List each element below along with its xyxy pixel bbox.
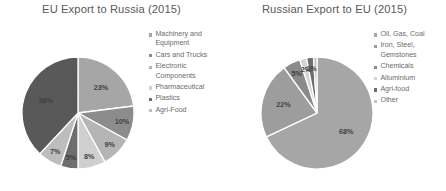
legend-bullet-icon [149, 66, 152, 69]
pie-slice-label: 2% [306, 64, 317, 73]
legend-label: Pharmaceutical [155, 83, 204, 92]
legend-label: Other [380, 96, 398, 105]
pie-slice-label: 68% [339, 127, 354, 136]
legend-bullet-icon [374, 66, 377, 69]
legend-bullet-icon [374, 45, 377, 48]
legend-label: Cars and Trucks [155, 51, 207, 60]
legend-item[interactable]: Agri-Food [149, 106, 223, 115]
legend-bullet-icon [149, 98, 152, 101]
legend-item[interactable]: Alluminium [374, 74, 446, 83]
legend-bullet-icon [374, 33, 377, 36]
legend-item[interactable]: Plastics [149, 94, 223, 103]
pie-slice-label: 23% [94, 83, 109, 92]
chart-panel-eu-export: EU Export to Russia (2015) 23%10%9%8%5%7… [0, 0, 223, 191]
legend-bullet-icon [374, 77, 377, 80]
legend-bullet-icon [374, 100, 377, 103]
legend-left: Machinery and Equipment Cars and Trucks … [149, 30, 223, 117]
legend-label: Iron, Steel, Gemstones [380, 41, 446, 60]
legend-label: Agri-food [380, 85, 409, 94]
chart-page: EU Export to Russia (2015) 23%10%9%8%5%7… [0, 0, 446, 191]
page-title-left: EU Export to Russia (2015) [0, 3, 223, 15]
legend-item[interactable]: Machinery and Equipment [149, 30, 223, 49]
pie-svg-right: 68%22%5%2%2% [260, 56, 374, 170]
legend-label: Chemicals [380, 62, 413, 71]
legend-item[interactable]: Iron, Steel, Gemstones [374, 41, 446, 60]
legend-item[interactable]: Cars and Trucks [149, 51, 223, 60]
pie-slice-label: 5% [66, 153, 77, 162]
legend-label: Agri-Food [155, 106, 186, 115]
pie-slice-label: 9% [104, 140, 115, 149]
legend-item[interactable]: Electronic Components [149, 62, 223, 81]
legend-label: Plastics [155, 94, 179, 103]
legend-item[interactable]: Chemicals [374, 62, 446, 71]
legend-item[interactable]: Oil, Gas, Coal [374, 30, 446, 39]
pie-slice-label: 7% [50, 147, 61, 156]
legend-label: Electronic Components [155, 62, 223, 81]
legend-item[interactable]: Other [374, 96, 446, 105]
legend-bullet-icon [149, 54, 152, 57]
pie-svg-left: 23%10%9%8%5%7%38% [21, 56, 135, 170]
legend-item[interactable]: Agri-food [374, 85, 446, 94]
pie-chart-russian-export: 68%22%5%2%2% [260, 56, 374, 170]
legend-right: Oil, Gas, Coal Iron, Steel, Gemstones Ch… [374, 30, 446, 108]
legend-label: Alluminium [380, 74, 415, 83]
legend-item[interactable]: Pharmaceutical [149, 83, 223, 92]
pie-slice-label: 38% [39, 96, 54, 105]
legend-label: Oil, Gas, Coal [380, 30, 424, 39]
pie-slice-label: 8% [84, 152, 95, 161]
legend-bullet-icon [149, 109, 152, 112]
chart-panel-russian-export: Russian Export to EU (2015) 68%22%5%2%2%… [223, 0, 446, 191]
legend-bullet-icon [149, 86, 152, 89]
legend-bullet-icon [374, 88, 377, 91]
page-title-right: Russian Export to EU (2015) [223, 3, 446, 15]
legend-label: Machinery and Equipment [155, 30, 223, 49]
legend-bullet-icon [149, 33, 152, 36]
pie-slice-label: 22% [276, 100, 291, 109]
pie-chart-eu-export: 23%10%9%8%5%7%38% [21, 56, 135, 170]
pie-slice-label: 10% [115, 117, 130, 126]
